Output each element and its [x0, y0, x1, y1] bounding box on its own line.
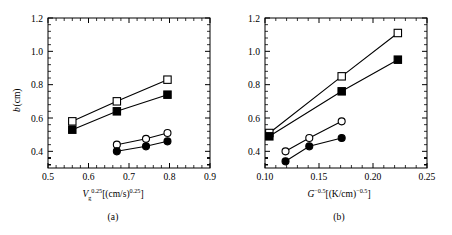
figure-container: 0.50.60.70.80.90.40.60.81.01.2 b (cm) Vg…: [0, 0, 452, 235]
y-tick-label: 1.2: [31, 13, 43, 24]
y-tick-label: 0.8: [248, 79, 260, 90]
data-point-filled-circle: [306, 143, 313, 150]
data-point-open-circle: [113, 141, 120, 148]
series-line-filled-circle: [286, 138, 342, 161]
series-line-open-circle: [286, 121, 342, 151]
plot-frame: [265, 18, 427, 168]
data-point-open-square: [69, 118, 76, 125]
y-axis-title-a: b (cm): [12, 89, 22, 112]
x-axis-title-a: Vg0.25[(cm/s)0.25]: [0, 189, 226, 199]
data-point-open-square: [338, 73, 345, 80]
data-point-filled-square: [69, 126, 76, 133]
data-point-filled-square: [266, 133, 273, 140]
y-tick-label: 0.4: [31, 146, 43, 157]
x-tick-label: 0.10: [257, 171, 274, 182]
y-tick-label: 1.2: [248, 13, 260, 24]
x-tick-label: 0.7: [123, 171, 135, 182]
y-tick-label: 0.6: [248, 113, 260, 124]
data-point-filled-circle: [338, 135, 345, 142]
data-point-filled-square: [338, 88, 345, 95]
data-point-filled-circle: [164, 138, 171, 145]
data-point-filled-square: [394, 56, 401, 63]
x-tick-label: 0.15: [311, 171, 328, 182]
x-tick-label: 0.25: [419, 171, 436, 182]
data-point-open-circle: [164, 130, 171, 137]
data-point-filled-circle: [143, 143, 150, 150]
y-tick-label: 0.4: [248, 146, 260, 157]
chart-panel-b: 0.100.150.200.250.40.60.81.01.2 G−0.5[(K…: [226, 0, 452, 235]
data-point-open-square: [113, 98, 120, 105]
data-point-filled-circle: [113, 148, 120, 155]
y-tick-label: 1.0: [248, 46, 260, 57]
x-tick-label: 0.6: [83, 171, 95, 182]
x-tick-label: 0.5: [42, 171, 54, 182]
data-point-open-circle: [282, 148, 289, 155]
data-point-open-square: [394, 29, 401, 36]
x-axis-title-b: G−0.5[(K/cm)−0.5]: [226, 189, 452, 199]
series-line-filled-square: [269, 60, 398, 137]
data-point-filled-square: [164, 91, 171, 98]
y-tick-label: 0.6: [31, 113, 43, 124]
plot-svg-b: 0.100.150.200.250.40.60.81.01.2: [226, 0, 452, 235]
data-point-open-circle: [338, 118, 345, 125]
panel-caption-a: (a): [0, 212, 226, 222]
data-point-filled-square: [113, 108, 120, 115]
data-point-open-square: [164, 76, 171, 83]
chart-panel-a: 0.50.60.70.80.90.40.60.81.01.2 b (cm) Vg…: [0, 0, 226, 235]
y-tick-label: 0.8: [31, 79, 43, 90]
data-point-open-circle: [143, 135, 150, 142]
x-tick-label: 0.8: [164, 171, 176, 182]
x-tick-label: 0.9: [204, 171, 216, 182]
series-line-open-square: [269, 33, 398, 133]
y-tick-label: 1.0: [31, 46, 43, 57]
x-tick-label: 0.20: [365, 171, 382, 182]
data-point-filled-circle: [282, 158, 289, 165]
plot-frame: [48, 18, 210, 168]
plot-svg-a: 0.50.60.70.80.90.40.60.81.01.2: [0, 0, 226, 235]
data-point-open-circle: [306, 135, 313, 142]
panel-caption-b: (b): [226, 212, 452, 222]
